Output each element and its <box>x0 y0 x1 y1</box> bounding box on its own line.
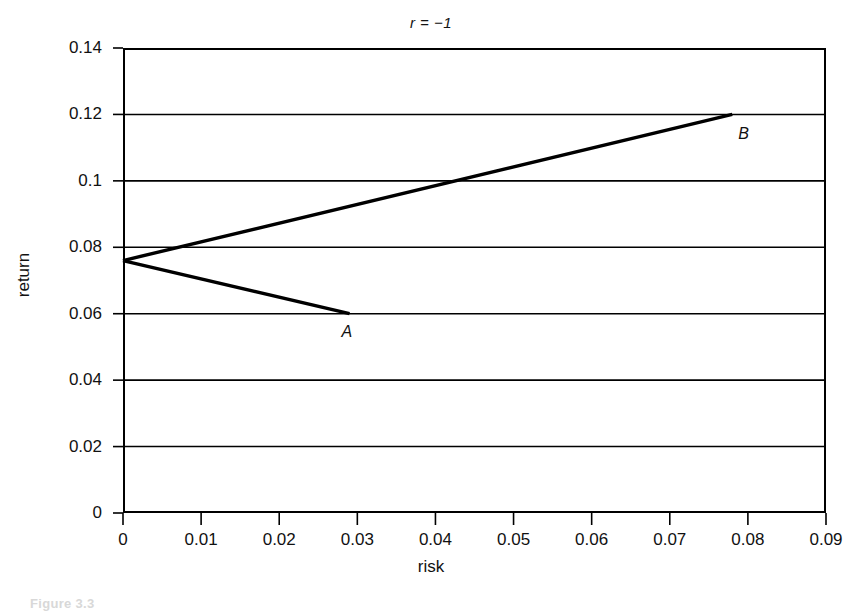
data-lines-group <box>123 114 732 313</box>
y-tick-label: 0.1 <box>20 172 102 189</box>
x-tick-label: 0.06 <box>552 531 632 548</box>
y-tick-marks-group <box>113 48 123 513</box>
x-axis-title: risk <box>0 557 862 577</box>
y-tick-label: 0.02 <box>20 438 102 455</box>
point-label-a: A <box>342 324 353 340</box>
x-tick-label: 0.05 <box>474 531 554 548</box>
x-tick-label: 0.07 <box>630 531 710 548</box>
gridlines-group <box>123 114 826 446</box>
x-tick-label: 0.01 <box>161 531 241 548</box>
x-tick-label: 0.03 <box>317 531 397 548</box>
data-line-segment-to-A <box>123 261 350 314</box>
x-tick-label: 0.02 <box>239 531 319 548</box>
y-tick-label: 0 <box>20 504 102 521</box>
x-tick-label: 0.08 <box>708 531 788 548</box>
y-axis-title: return <box>14 235 34 315</box>
plot-area <box>123 48 826 513</box>
x-tick-marks-group <box>123 513 826 525</box>
chart-title: r = −1 <box>0 14 862 31</box>
x-tick-label: 0 <box>83 531 163 548</box>
figure-container: r = −1 00.020.040.060.080.10.120.14 00.0… <box>0 0 862 612</box>
data-line-segment-to-B <box>123 114 732 260</box>
x-tick-label: 0.09 <box>786 531 862 548</box>
figure-caption: Figure 3.3 <box>30 596 94 611</box>
y-tick-label: 0.12 <box>20 105 102 122</box>
point-label-b: B <box>738 126 749 142</box>
y-tick-label: 0.04 <box>20 371 102 388</box>
y-tick-label: 0.14 <box>20 39 102 56</box>
x-tick-label: 0.04 <box>395 531 475 548</box>
